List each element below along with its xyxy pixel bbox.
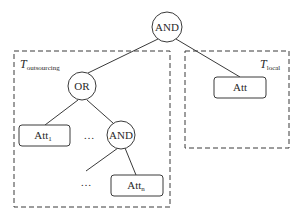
edge-and2-ellipsis: [86, 148, 118, 171]
ellipsis-2: …: [81, 176, 92, 188]
or-node: OR: [68, 72, 96, 100]
edge-and2-attn: [125, 148, 136, 175]
att-n-leaf: Attn: [111, 175, 163, 196]
ellipsis-1: …: [84, 129, 95, 141]
edge-root-or: [88, 39, 158, 73]
svg-text:AND: AND: [109, 129, 133, 141]
outsourcing-region-label: Toutsourcing: [20, 57, 60, 72]
edge-or-att1: [45, 100, 78, 125]
inner-and-node: AND: [107, 121, 135, 149]
edge-or-and2: [87, 100, 113, 123]
access-tree-diagram: Toutsourcing Tlocal AND OR Att Att1 … AN…: [0, 0, 297, 217]
att-local-leaf: Att: [214, 77, 266, 98]
att-1-leaf: Att1: [19, 125, 70, 146]
local-region-label: Tlocal: [260, 57, 280, 72]
svg-text:OR: OR: [74, 80, 90, 92]
edge-root-att: [176, 39, 240, 77]
svg-text:Att: Att: [233, 81, 247, 93]
root-and-node: AND: [152, 12, 182, 42]
svg-text:AND: AND: [155, 21, 179, 33]
